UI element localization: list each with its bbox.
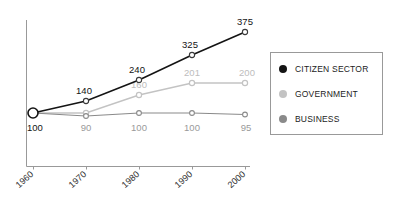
point-label-citizen-sector: 240 xyxy=(129,64,145,75)
legend-item-label: GOVERNMENT xyxy=(295,89,358,99)
legend-item-government[interactable]: GOVERNMENT xyxy=(279,81,382,106)
circle-filled-icon xyxy=(279,115,287,123)
x-tick-label: 2000 xyxy=(226,169,248,190)
x-tick-label: 1990 xyxy=(173,169,195,190)
point-label-citizen-sector: 140 xyxy=(76,85,92,96)
point-label-business: 100 xyxy=(131,122,147,133)
origin-marker xyxy=(28,108,38,118)
point-label-business: 95 xyxy=(241,122,252,133)
series-markers-government xyxy=(83,80,247,115)
legend-item-label: BUSINESS xyxy=(295,114,340,124)
legend-item-citizen-sector[interactable]: CITIZEN SECTOR xyxy=(279,56,382,81)
legend-item-label: CITIZEN SECTOR xyxy=(295,64,368,74)
point-label-government: 200 xyxy=(239,67,255,78)
point-label-business: 100 xyxy=(184,122,200,133)
x-tick-labels: 1960 1970 1980 1990 2000 xyxy=(14,169,248,190)
x-tick-label: 1970 xyxy=(67,169,89,190)
chart-legend: CITIZEN SECTOR GOVERNMENT BUSINESS xyxy=(270,52,383,135)
circle-filled-icon xyxy=(279,90,287,98)
point-label-government: 201 xyxy=(184,67,200,78)
x-tick-label: 1980 xyxy=(120,169,142,190)
chart-screenshot: 1960 1970 1980 1990 2000 160 201 200 xyxy=(0,0,399,205)
legend-item-business[interactable]: BUSINESS xyxy=(279,106,382,131)
series-labels-government: 160 201 200 xyxy=(131,67,255,90)
circle-filled-icon xyxy=(279,65,287,73)
series-labels-citizen-sector: 140 240 325 375 xyxy=(76,16,253,96)
point-label-citizen-sector: 375 xyxy=(237,16,253,27)
series-labels-business: 90 100 100 95 xyxy=(81,122,252,133)
origin-label: 100 xyxy=(27,122,43,133)
x-tick-label: 1960 xyxy=(14,169,36,190)
point-label-citizen-sector: 325 xyxy=(182,39,198,50)
point-label-business: 90 xyxy=(81,122,92,133)
